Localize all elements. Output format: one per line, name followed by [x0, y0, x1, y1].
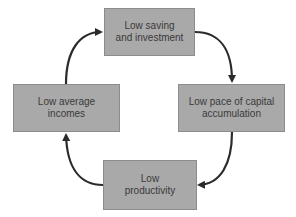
node-low-pace-of-capital-accumulation: Low pace of capital accumulation: [178, 84, 285, 132]
node-low-saving-and-investment: Low saving and investment: [104, 8, 195, 56]
arrow-left-to-top: [66, 32, 101, 84]
node-label: Low average incomes: [38, 96, 95, 120]
node-label: Low pace of capital accumulation: [189, 96, 275, 120]
node-label: Low productivity: [125, 173, 176, 197]
node-label: Low saving and investment: [116, 20, 184, 44]
node-low-average-incomes: Low average incomes: [13, 84, 120, 132]
node-low-productivity: Low productivity: [103, 160, 197, 210]
arrow-right-to-bottom: [199, 132, 232, 185]
arrow-top-to-right: [195, 32, 232, 81]
arrow-bottom-to-left: [66, 135, 103, 185]
